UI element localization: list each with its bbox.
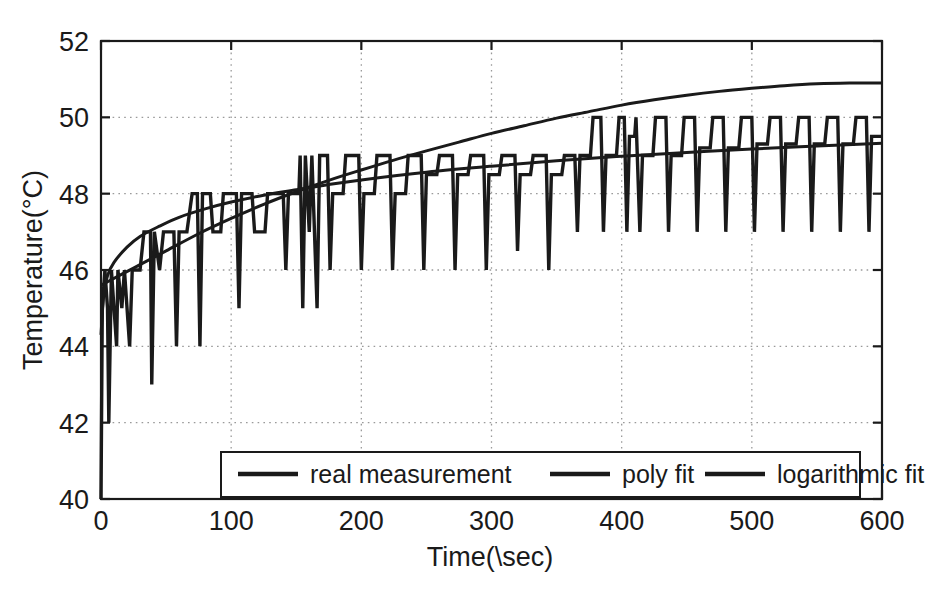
x-tick-label: 400 xyxy=(599,506,644,536)
chart-canvas: 0100200300400500600 40424446485052 Time(… xyxy=(0,0,930,594)
legend-label-real-measurement: real measurement xyxy=(310,460,512,488)
y-tick-label: 52 xyxy=(59,27,89,57)
series-poly-fit xyxy=(101,83,882,285)
y-tick-label: 50 xyxy=(59,103,89,133)
x-tick-labels: 0100200300400500600 xyxy=(93,506,904,536)
y-tick-label: 44 xyxy=(59,332,89,362)
y-tick-label: 46 xyxy=(59,256,89,286)
chart-figure: 0100200300400500600 40424446485052 Time(… xyxy=(0,0,930,594)
legend: real measurement poly fit logarithmic fi… xyxy=(221,452,924,497)
x-tick-label: 600 xyxy=(859,506,904,536)
x-tick-label: 200 xyxy=(339,506,384,536)
x-axis-title: Time(\sec) xyxy=(427,542,554,572)
legend-label-logarithmic-fit: logarithmic fit xyxy=(777,460,924,488)
x-tick-label: 0 xyxy=(93,506,108,536)
grid-lines xyxy=(101,41,882,499)
x-tick-label: 100 xyxy=(209,506,254,536)
y-tick-label: 48 xyxy=(59,180,89,210)
y-tick-label: 40 xyxy=(59,485,89,515)
legend-label-poly-fit: poly fit xyxy=(622,460,694,488)
x-tick-label: 500 xyxy=(729,506,774,536)
y-tick-labels: 40424446485052 xyxy=(59,27,89,515)
y-tick-label: 42 xyxy=(59,409,89,439)
y-axis-title: Temperature(°C) xyxy=(18,170,48,370)
x-tick-label: 300 xyxy=(469,506,514,536)
